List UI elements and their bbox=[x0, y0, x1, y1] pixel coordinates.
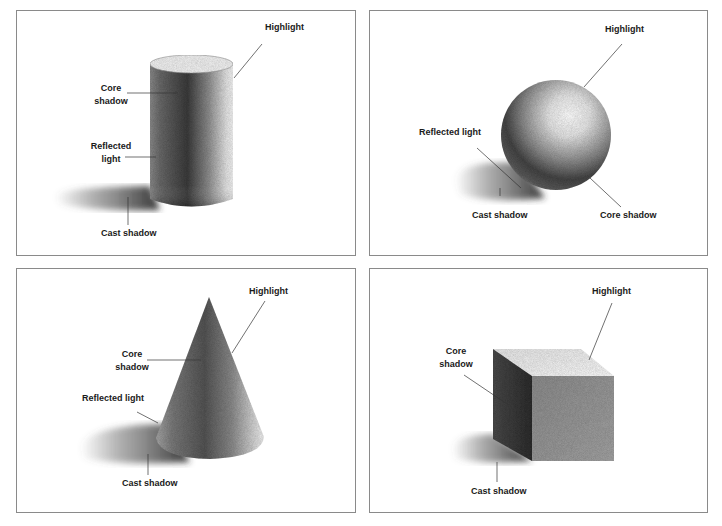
cone-cast-shadow-label: Cast shadow bbox=[122, 477, 178, 490]
shading-illustrations bbox=[0, 0, 722, 526]
cube-front-face bbox=[532, 376, 614, 461]
cone-core-shadow-label-2: shadow bbox=[113, 361, 151, 374]
sphere-cast-shadow-label: Cast shadow bbox=[472, 209, 528, 222]
sphere-drawing bbox=[455, 80, 611, 200]
cylinder-highlight-label: Highlight bbox=[265, 21, 304, 34]
cube-core-shadow-label-2: shadow bbox=[437, 358, 475, 371]
cylinder-drawing bbox=[55, 55, 233, 210]
cylinder-top bbox=[150, 55, 233, 73]
cylinder-cast-shadow-label: Cast shadow bbox=[101, 227, 157, 240]
cylinder-core-shadow-label-1: Core bbox=[96, 82, 126, 95]
cylinder-cast-shadow bbox=[55, 186, 160, 210]
sphere-highlight-label: Highlight bbox=[605, 23, 644, 36]
cylinder-reflected-light-label-1: Reflected bbox=[90, 140, 132, 153]
cube-highlight-label: Highlight bbox=[592, 285, 631, 298]
cone-body bbox=[156, 297, 264, 459]
cone-drawing bbox=[80, 297, 264, 463]
cylinder-core-shadow-label-2: shadow bbox=[92, 95, 130, 108]
cone-reflected-light-label: Reflected light bbox=[82, 392, 144, 405]
cube-drawing bbox=[452, 349, 614, 462]
sphere-core-shadow-label: Core shadow bbox=[600, 209, 657, 222]
cone-highlight-label: Highlight bbox=[249, 285, 288, 298]
sphere-reflected-light-label: Reflected light bbox=[419, 126, 481, 139]
cube-core-shadow-label-1: Core bbox=[441, 345, 471, 358]
sphere-body bbox=[501, 80, 611, 190]
cylinder-reflected-light-label-2: light bbox=[90, 153, 132, 166]
cube-cast-shadow-label: Cast shadow bbox=[471, 485, 527, 498]
cone-core-shadow-label-1: Core bbox=[117, 348, 147, 361]
